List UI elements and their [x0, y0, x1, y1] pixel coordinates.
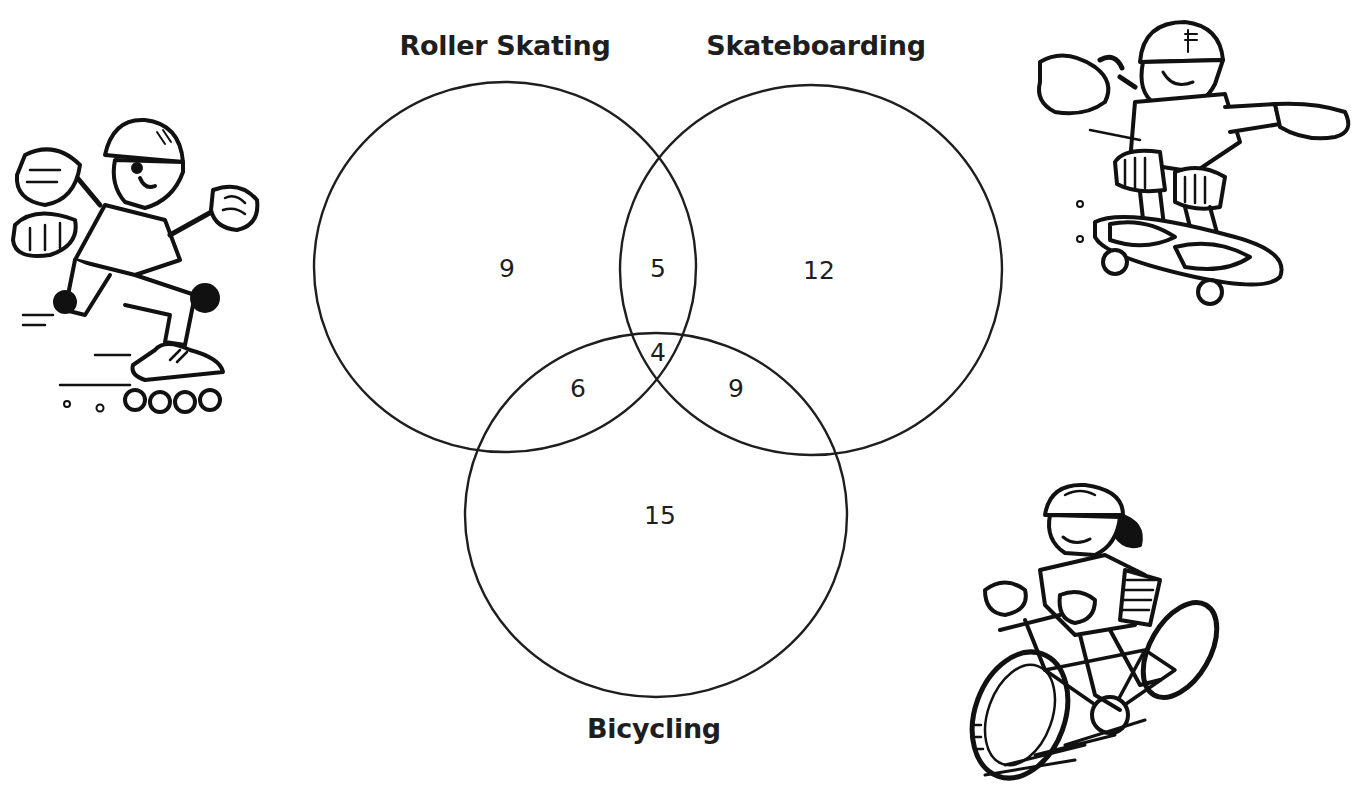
value-roller-only: 9 — [499, 254, 515, 283]
label-skateboarding: Skateboarding — [706, 30, 925, 61]
value-skate-only: 12 — [803, 256, 835, 285]
value-roller-bike: 6 — [570, 374, 586, 403]
value-bike-only: 15 — [644, 501, 676, 530]
label-roller-skating: Roller Skating — [399, 30, 610, 61]
value-roller-skate: 5 — [650, 254, 666, 283]
skateboarder-illustration — [1025, 12, 1355, 307]
label-bicycling: Bicycling — [587, 713, 721, 744]
value-all-three: 4 — [650, 338, 666, 367]
value-skate-bike: 9 — [728, 374, 744, 403]
bicyclist-illustration — [945, 475, 1225, 785]
roller-skater-illustration — [5, 110, 270, 430]
